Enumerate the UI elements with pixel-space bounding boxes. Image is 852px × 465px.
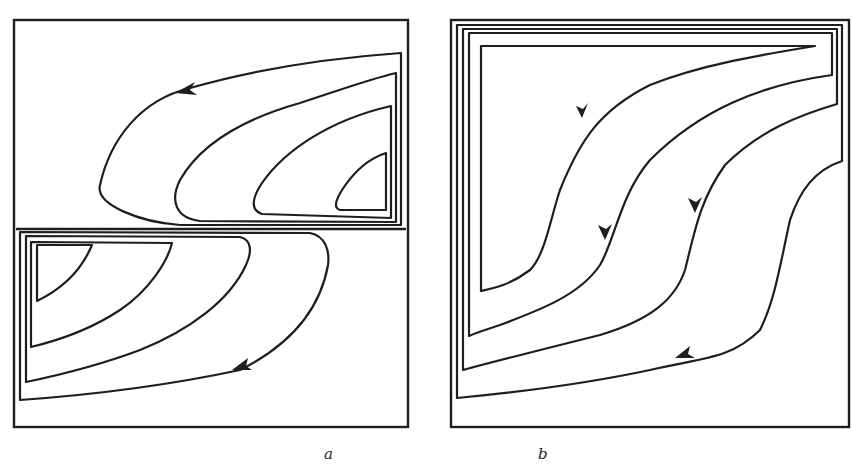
panel-a-label: a xyxy=(324,445,333,463)
streamline-b-3 xyxy=(469,33,832,336)
arrow-a-top xyxy=(175,82,197,95)
streamline-a-top-1 xyxy=(100,53,401,225)
arrow-b-1 xyxy=(576,103,588,118)
streamline-b-4 xyxy=(481,46,815,291)
streamline-a-bottom-4 xyxy=(37,245,92,301)
panel-a-frame xyxy=(14,20,408,427)
panel-b xyxy=(451,20,849,427)
arrow-a-bottom xyxy=(232,358,252,370)
arrow-b-2 xyxy=(598,224,612,240)
arrow-b-4 xyxy=(675,346,695,358)
panel-b-label: b xyxy=(538,445,548,463)
streamline-a-bottom-3 xyxy=(31,242,172,347)
streamline-a-top-2 xyxy=(175,73,396,222)
arrow-b-3 xyxy=(688,197,702,213)
streamline-figure xyxy=(0,0,852,465)
streamline-a-top-4 xyxy=(336,153,386,210)
streamline-b-2 xyxy=(463,29,837,370)
streamline-b-1 xyxy=(457,25,842,398)
streamline-a-bottom-1 xyxy=(20,232,328,400)
streamline-a-top-3 xyxy=(254,106,391,218)
streamline-a-bottom-2 xyxy=(26,236,250,382)
panel-a xyxy=(14,20,408,427)
